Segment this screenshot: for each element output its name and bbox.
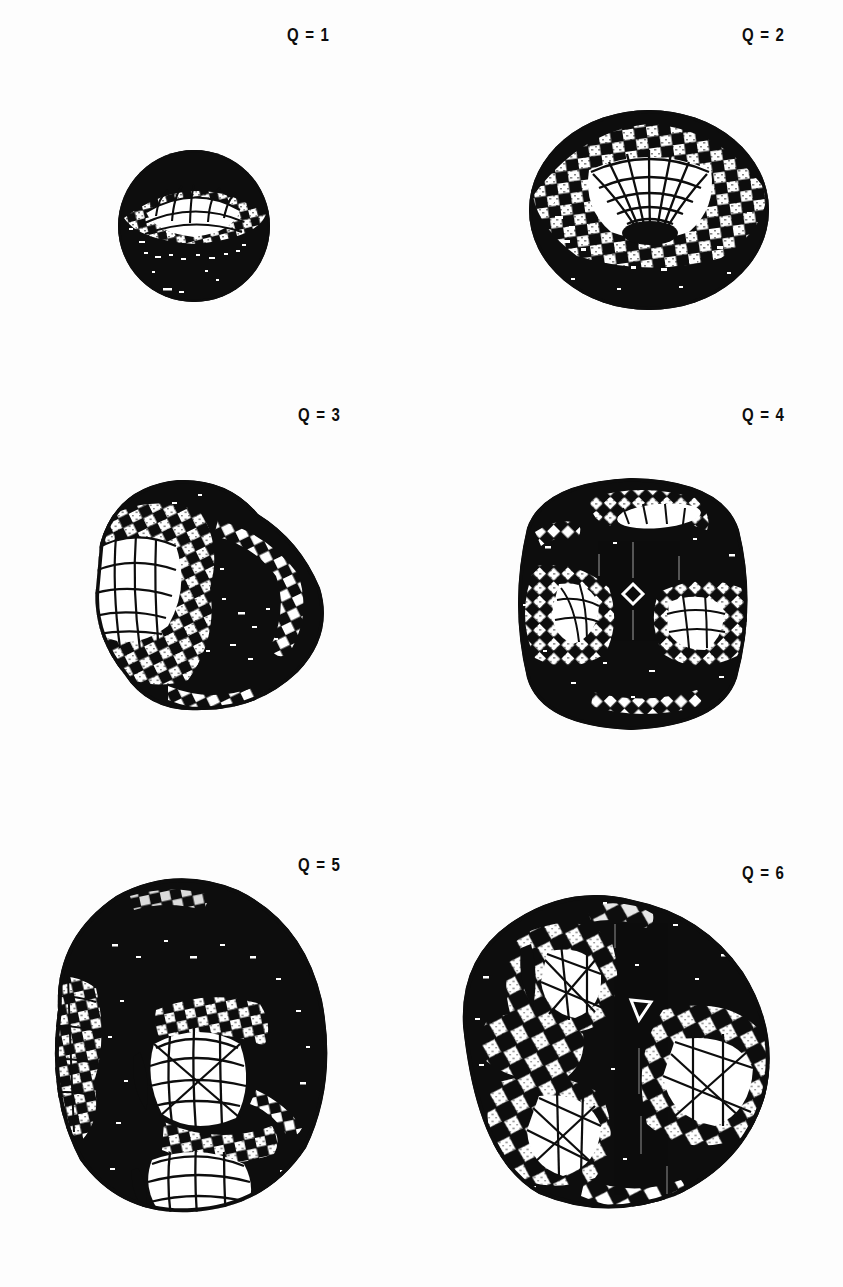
q2-surface bbox=[521, 100, 781, 330]
panel-q2-label: Q = 2 bbox=[742, 24, 785, 44]
panel-q5: Q = 5 bbox=[0, 860, 421, 1287]
panel-q4: Q = 4 bbox=[421, 430, 843, 860]
panel-q3-label: Q = 3 bbox=[298, 404, 341, 424]
panel-q1: Q = 1 bbox=[0, 0, 421, 430]
q3-surface bbox=[72, 448, 352, 748]
panel-q6: Q = 6 bbox=[421, 860, 843, 1287]
q5-surface bbox=[24, 860, 354, 1230]
panel-q1-label: Q = 1 bbox=[287, 24, 330, 44]
panel-q4-label: Q = 4 bbox=[742, 404, 785, 424]
panel-q3: Q = 3 bbox=[0, 430, 421, 860]
panel-q2: Q = 2 bbox=[421, 0, 843, 430]
skyrmion-figure: Q = 1 bbox=[0, 0, 843, 1287]
q1-surface bbox=[108, 140, 288, 320]
q4-surface bbox=[483, 454, 783, 754]
q6-surface bbox=[435, 868, 795, 1228]
